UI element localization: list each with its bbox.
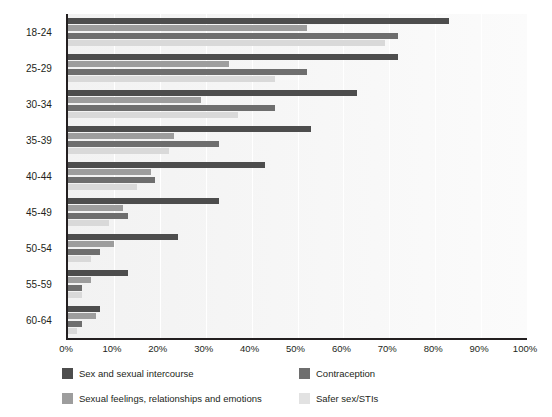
legend-label: Sexual feelings, relationships and emoti… — [79, 393, 262, 404]
bar-fill — [68, 220, 109, 226]
legend-item[interactable]: Sex and sexual intercourse — [62, 368, 194, 379]
x-axis-tick-label: 50% — [286, 343, 305, 354]
bar — [68, 177, 155, 183]
chart-container: 18-2425-2930-3435-3940-4445-4950-5455-59… — [0, 0, 552, 417]
bar-fill — [68, 18, 449, 24]
bar — [68, 169, 151, 175]
chart-legend: Sex and sexual intercourseContraceptionS… — [62, 368, 532, 412]
legend-swatch — [299, 393, 310, 404]
bar-fill — [68, 141, 219, 147]
bar — [68, 328, 77, 334]
y-axis-tick-label: 45-49 — [26, 207, 52, 218]
bar — [68, 184, 137, 190]
bar-fill — [68, 184, 137, 190]
bar — [68, 33, 398, 39]
x-axis-tick-label: 10% — [102, 343, 121, 354]
x-axis-tick-label: 40% — [240, 343, 259, 354]
y-axis-tick-label: 18-24 — [26, 27, 52, 38]
legend-item[interactable]: Safer sex/STIs — [299, 393, 378, 404]
legend-item[interactable]: Contraception — [299, 368, 375, 379]
plot-area — [66, 14, 527, 338]
legend-label: Safer sex/STIs — [316, 393, 378, 404]
x-axis-tick-label: 30% — [194, 343, 213, 354]
bar — [68, 306, 100, 312]
bar — [68, 61, 229, 67]
y-axis-tick-label: 60-64 — [26, 315, 52, 326]
x-axis-tick-label: 20% — [148, 343, 167, 354]
bar-fill — [68, 313, 96, 319]
x-axis-tick-label: 0% — [59, 343, 73, 354]
bar-fill — [68, 40, 385, 46]
y-axis-tick-label: 30-34 — [26, 99, 52, 110]
bar — [68, 133, 174, 139]
y-axis-tick-label: 50-54 — [26, 243, 52, 254]
bar-fill — [68, 328, 77, 334]
bar-group — [68, 230, 527, 266]
bar-fill — [68, 54, 398, 60]
bar — [68, 126, 311, 132]
bar-fill — [68, 112, 238, 118]
bar-fill — [68, 177, 155, 183]
bar-fill — [68, 234, 178, 240]
bar — [68, 213, 128, 219]
bar — [68, 220, 109, 226]
bar-fill — [68, 169, 151, 175]
bar — [68, 76, 275, 82]
bar-fill — [68, 256, 91, 262]
bar-fill — [68, 90, 357, 96]
bar — [68, 249, 100, 255]
bar-fill — [68, 249, 100, 255]
bar — [68, 234, 178, 240]
bar-group — [68, 122, 527, 158]
legend-item[interactable]: Sexual feelings, relationships and emoti… — [62, 393, 262, 404]
bar-fill — [68, 198, 219, 204]
bar — [68, 69, 307, 75]
bar-group — [68, 194, 527, 230]
y-axis-tick-label: 25-29 — [26, 63, 52, 74]
bar-group — [68, 86, 527, 122]
bar — [68, 90, 357, 96]
bar-fill — [68, 126, 311, 132]
x-axis-tick-label: 60% — [332, 343, 351, 354]
bar — [68, 313, 96, 319]
bar — [68, 321, 82, 327]
bar-fill — [68, 241, 114, 247]
legend-swatch — [62, 393, 73, 404]
bar-fill — [68, 97, 201, 103]
bar-fill — [68, 69, 307, 75]
bar-fill — [68, 25, 307, 31]
x-axis-tick-label: 70% — [378, 343, 397, 354]
bar-fill — [68, 270, 128, 276]
bar — [68, 105, 275, 111]
y-axis-labels: 18-2425-2930-3435-3940-4445-4950-5455-59… — [0, 14, 60, 338]
legend-label: Contraception — [316, 368, 375, 379]
bar — [68, 97, 201, 103]
bar-fill — [68, 76, 275, 82]
bar-fill — [68, 61, 229, 67]
legend-label: Sex and sexual intercourse — [79, 368, 194, 379]
x-axis-tick-label: 80% — [424, 343, 443, 354]
bar — [68, 292, 82, 298]
bar-group — [68, 266, 527, 302]
bar — [68, 18, 449, 24]
bar-group — [68, 14, 527, 50]
x-axis-line — [66, 338, 527, 340]
bar-group — [68, 302, 527, 338]
bar-fill — [68, 277, 91, 283]
bar — [68, 141, 219, 147]
bar — [68, 112, 238, 118]
bar-group — [68, 50, 527, 86]
x-axis-labels: 0%10%20%30%40%50%60%70%80%90%100% — [66, 343, 525, 359]
bar — [68, 25, 307, 31]
bar-fill — [68, 33, 398, 39]
bar — [68, 270, 128, 276]
bar-fill — [68, 213, 128, 219]
bar-fill — [68, 148, 169, 154]
bar-fill — [68, 205, 123, 211]
bar-groups — [68, 14, 527, 338]
bar-fill — [68, 321, 82, 327]
bar — [68, 205, 123, 211]
legend-swatch — [299, 368, 310, 379]
bar — [68, 256, 91, 262]
bar — [68, 241, 114, 247]
